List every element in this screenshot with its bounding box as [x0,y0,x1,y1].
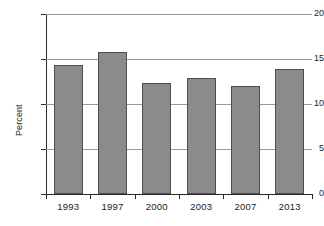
x-tick-label-2003: 2003 [179,201,223,212]
bar-chart: Percent 05101520 19931997200020032007201… [0,0,324,226]
bar-1997 [98,52,127,194]
gridline [46,149,312,150]
x-tick-label-2013: 2013 [268,201,312,212]
gridline [46,14,312,15]
x-tick-mark [179,195,180,199]
x-tick-mark [312,195,313,199]
x-tick-label-2000: 2000 [135,201,179,212]
x-tick-mark [46,195,47,199]
x-tick-label-2007: 2007 [223,201,267,212]
y-axis-title: Percent [14,122,24,136]
x-tick-mark [90,195,91,199]
x-tick-label-1993: 1993 [46,201,90,212]
gridline [46,59,312,60]
x-tick-mark [223,195,224,199]
x-tick-mark [135,195,136,199]
gridline [46,104,312,105]
plot-area [46,14,312,194]
bar-2013 [275,69,304,194]
bar-2007 [231,86,260,194]
bar-2000 [142,83,171,194]
bar-2003 [187,78,216,194]
x-tick-mark [268,195,269,199]
x-tick-label-1997: 1997 [90,201,134,212]
gridline [46,194,312,195]
bar-1993 [54,65,83,194]
